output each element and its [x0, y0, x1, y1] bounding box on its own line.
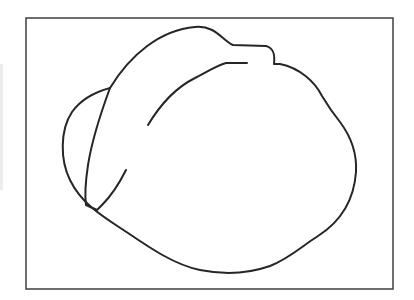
frame-border	[26, 18, 393, 289]
drawing-canvas	[0, 0, 414, 300]
outer-outline	[63, 27, 356, 273]
sketch-svg	[0, 0, 414, 300]
inner-arc	[148, 63, 247, 125]
spine-stroke	[85, 88, 126, 210]
